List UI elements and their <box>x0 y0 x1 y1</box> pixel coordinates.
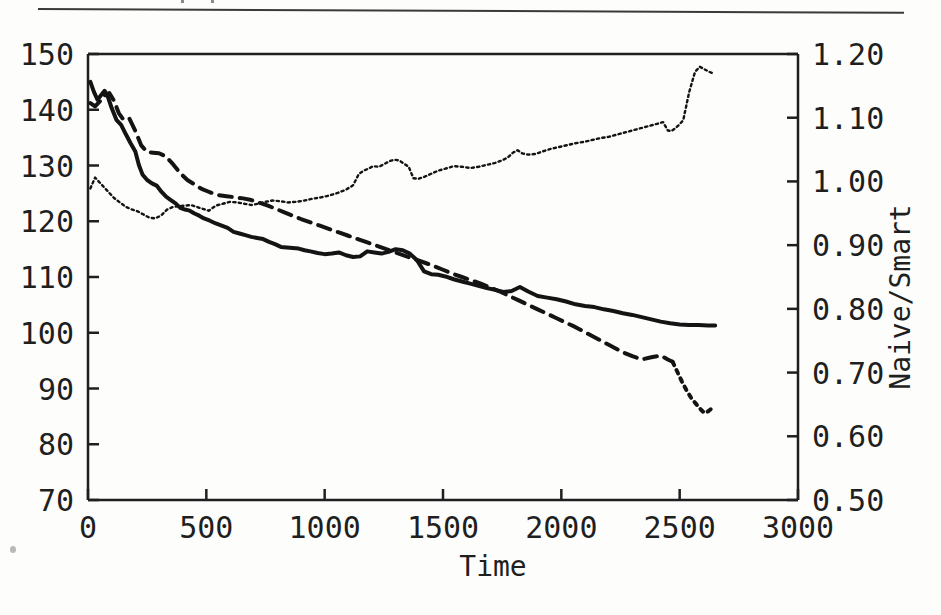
y-tick-label-140: 140 <box>20 93 74 128</box>
x-tick-label-2000: 2000 <box>525 510 597 545</box>
y-axis-tick-labels-right: 0.500.600.700.800.901.001.101.20 <box>812 37 884 518</box>
y-tick-label-80: 80 <box>38 427 74 462</box>
y-tick-label-right-1.20: 1.20 <box>812 37 884 72</box>
x-tick-label-500: 500 <box>179 510 233 545</box>
y-tick-label-right-1.10: 1.10 <box>812 101 884 136</box>
y-tick-label-70: 70 <box>38 483 74 518</box>
y-tick-label-90: 90 <box>38 372 74 407</box>
y-axis-ticks-left <box>88 54 99 500</box>
x-axis-ticks <box>88 489 798 500</box>
x-axis-label: Time <box>459 550 526 583</box>
y-tick-label-right-0.90: 0.90 <box>812 228 884 263</box>
y-tick-label-right-0.50: 0.50 <box>812 483 884 518</box>
y-tick-label-right-0.60: 0.60 <box>812 419 884 454</box>
y-axis-tick-labels-left: 708090100110120130140150 <box>20 37 74 518</box>
y-tick-label-110: 110 <box>20 260 74 295</box>
x-tick-label-2500: 2500 <box>644 510 716 545</box>
series-dashed-curve-tail-dotted <box>673 362 714 413</box>
chart-plot: 050010001500200025003000 708090100110120… <box>0 0 941 615</box>
y-tick-label-right-1.00: 1.00 <box>812 164 884 199</box>
y-axis-ticks-right <box>787 54 798 500</box>
y-tick-label-130: 130 <box>20 149 74 184</box>
series-solid-curve <box>90 82 715 326</box>
x-tick-label-0: 0 <box>79 510 97 545</box>
y-tick-label-150: 150 <box>20 37 74 72</box>
x-axis-tick-labels: 050010001500200025003000 <box>79 510 834 545</box>
x-tick-label-1500: 1500 <box>407 510 479 545</box>
y-tick-label-100: 100 <box>20 316 74 351</box>
series-dashed-curve <box>90 93 672 362</box>
y-tick-label-right-0.80: 0.80 <box>812 292 884 327</box>
figure-canvas: 050010001500200025003000 708090100110120… <box>0 0 941 615</box>
y-axis-label-right: Naive/Smart <box>884 204 917 389</box>
data-series-group <box>90 67 715 413</box>
y-tick-label-right-0.70: 0.70 <box>812 356 884 391</box>
series-dotted-ratio-curve <box>90 67 714 219</box>
x-tick-label-1000: 1000 <box>289 510 361 545</box>
y-tick-label-120: 120 <box>20 204 74 239</box>
